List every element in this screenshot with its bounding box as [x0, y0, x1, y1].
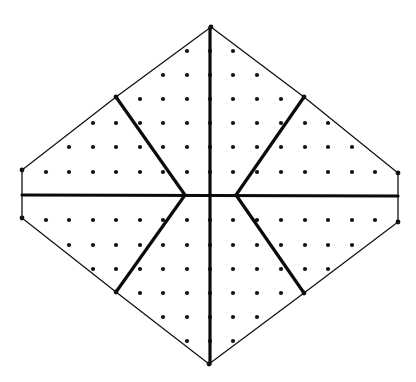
- lattice-dot: [185, 121, 189, 125]
- lattice-dot: [303, 243, 307, 247]
- lattice-dot: [185, 49, 189, 53]
- lattice-dot: [231, 121, 235, 125]
- vertex-dot: [20, 216, 25, 221]
- lattice-dot: [255, 170, 259, 174]
- lattice-dot: [231, 218, 235, 222]
- lattice-dot: [231, 315, 235, 319]
- lattice-dot: [91, 170, 95, 174]
- lattice-dot: [91, 243, 95, 247]
- spoke-upper-left-line: [116, 97, 185, 195]
- lattice-dot: [185, 291, 189, 295]
- vertex-dot: [302, 95, 307, 100]
- lattice-dot: [350, 243, 354, 247]
- lattice-dot: [185, 315, 189, 319]
- lattice-dot: [185, 170, 189, 174]
- lattice-dot: [231, 97, 235, 101]
- lattice-dot: [161, 145, 165, 149]
- lattice-dot: [255, 291, 259, 295]
- lattice-dot: [326, 243, 330, 247]
- vertex-dot: [20, 168, 25, 173]
- lattice-dot: [255, 145, 259, 149]
- horizontal-axis-line: [22, 195, 398, 196]
- lattice-dot: [279, 145, 283, 149]
- lattice-dot: [279, 291, 283, 295]
- lattice-dot: [231, 170, 235, 174]
- lattice-dot: [350, 170, 354, 174]
- lattice-dot: [303, 218, 307, 222]
- lattice-dot: [231, 145, 235, 149]
- lattice-dot: [185, 73, 189, 77]
- lattice-dot: [67, 170, 71, 174]
- lattice-dot: [231, 267, 235, 271]
- lattice-dot: [279, 97, 283, 101]
- vertex-dot: [114, 95, 119, 100]
- lattice-dot: [161, 73, 165, 77]
- lattice-dot: [114, 145, 118, 149]
- lattice-dot: [326, 170, 330, 174]
- lattice-dot: [326, 218, 330, 222]
- lattice-dot: [326, 121, 330, 125]
- lattice-dot: [255, 73, 259, 77]
- lattice-dot: [279, 121, 283, 125]
- lattice-dot: [91, 145, 95, 149]
- vertex-dot: [302, 291, 307, 296]
- lattice-dot: [161, 267, 165, 271]
- lattice-dot: [279, 243, 283, 247]
- lattice-dot: [303, 267, 307, 271]
- lattice-dot: [67, 218, 71, 222]
- lattice-dot: [279, 170, 283, 174]
- lattice-dot: [161, 315, 165, 319]
- lattice-dot: [303, 121, 307, 125]
- lattice-dot: [185, 243, 189, 247]
- lattice-dot: [161, 291, 165, 295]
- lattice-dot: [185, 218, 189, 222]
- vertex-dot: [396, 171, 401, 176]
- lattice-dot: [67, 243, 71, 247]
- vertex-dot: [207, 362, 212, 367]
- lattice-dot: [303, 170, 307, 174]
- lattice-dot: [231, 49, 235, 53]
- lattice-dot: [161, 243, 165, 247]
- lattice-dot: [114, 218, 118, 222]
- lattice-dot: [255, 243, 259, 247]
- lattice-dot: [138, 121, 142, 125]
- lattice-polygon-diagram: [0, 0, 416, 382]
- lattice-dot: [279, 267, 283, 271]
- region-dividers: [22, 27, 398, 364]
- lattice-dot: [185, 267, 189, 271]
- lattice-dot: [231, 339, 235, 343]
- vertex-dot: [209, 25, 214, 30]
- lattice-dot: [44, 170, 48, 174]
- lattice-dot: [161, 170, 165, 174]
- lattice-dot: [138, 97, 142, 101]
- lattice-dot: [161, 97, 165, 101]
- vertex-dot: [114, 290, 119, 295]
- spoke-upper-right-line: [236, 97, 304, 195]
- lattice-dot: [350, 145, 354, 149]
- lattice-dot: [44, 218, 48, 222]
- lattice-dot: [231, 291, 235, 295]
- lattice-dot: [231, 243, 235, 247]
- lattice-dot: [373, 170, 377, 174]
- lattice-dot: [231, 73, 235, 77]
- lattice-dot: [91, 218, 95, 222]
- lattice-dot: [138, 267, 142, 271]
- lattice-dot: [138, 145, 142, 149]
- lattice-dot: [303, 145, 307, 149]
- lattice-dot: [185, 97, 189, 101]
- lattice-dot: [161, 121, 165, 125]
- lattice-dot: [138, 218, 142, 222]
- lattice-dot: [185, 145, 189, 149]
- lattice-dot: [326, 267, 330, 271]
- lattice-dot: [255, 315, 259, 319]
- spoke-lower-left-line: [116, 195, 185, 292]
- lattice-dot: [114, 243, 118, 247]
- lattice-dot: [255, 121, 259, 125]
- lattice-dot: [91, 121, 95, 125]
- lattice-dot: [350, 218, 354, 222]
- lattice-dot: [373, 218, 377, 222]
- lattice-dot: [114, 121, 118, 125]
- lattice-dot: [138, 243, 142, 247]
- lattice-dot: [255, 97, 259, 101]
- lattice-dot: [326, 145, 330, 149]
